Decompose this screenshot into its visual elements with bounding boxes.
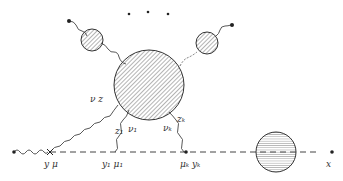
vertex-dot-k	[184, 150, 188, 154]
propagator-hatched-blob	[256, 132, 296, 172]
left-endpoint-dot	[12, 150, 16, 154]
wavy-leg-right	[216, 25, 231, 36]
label-y1-mu1: y₁ μ₁	[102, 160, 123, 169]
wavy-line-nu-z	[50, 105, 118, 152]
label-nu1: ν₁	[128, 125, 137, 134]
external-wavy-leg	[14, 150, 48, 154]
right-endpoint-dot	[330, 150, 334, 154]
dotted-connector-right	[180, 52, 197, 66]
label-x: x	[326, 160, 331, 169]
left-small-hatched-blob	[81, 29, 103, 51]
label-nuk: νₖ	[163, 124, 172, 133]
wavy-connector-left	[101, 43, 126, 64]
ellipsis-dots	[128, 11, 170, 16]
right-small-endpoint-dot	[230, 23, 234, 27]
big-hatched-blob	[114, 50, 184, 120]
label-muk-yk: μₖ yₖ	[180, 160, 200, 169]
label-z1: z₁	[115, 127, 123, 136]
right-small-hatched-blob	[196, 32, 218, 54]
left-small-endpoint-dot	[67, 19, 71, 23]
label-nu-z: ν z	[90, 95, 103, 104]
label-zk: zₖ	[177, 115, 185, 124]
label-y-mu: y μ	[44, 160, 58, 169]
diagram: ν z z₁ ν₁ νₖ zₖ y μ y₁ μ₁ μₖ yₖ x	[0, 0, 343, 181]
diagram-canvas	[0, 0, 343, 181]
